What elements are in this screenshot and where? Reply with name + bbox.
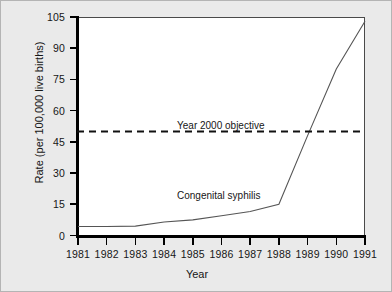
x-tick (364, 238, 366, 245)
x-tick-label: 1982 (95, 249, 119, 260)
y-tick (70, 203, 77, 205)
x-tick (192, 238, 194, 245)
y-tick-label: 75 (53, 74, 65, 85)
x-tick-label: 1989 (296, 249, 320, 260)
x-tick (307, 238, 309, 245)
x-tick (135, 238, 137, 245)
x-tick-label: 1988 (267, 249, 291, 260)
y-tick-label: 30 (53, 168, 65, 179)
x-tick-label: 1990 (324, 249, 348, 260)
x-tick (249, 238, 251, 245)
y-tick (70, 16, 77, 18)
x-tick (77, 238, 79, 245)
x-tick (221, 238, 223, 245)
x-tick-label: 1986 (209, 249, 233, 260)
x-tick-label: 1984 (152, 249, 176, 260)
y-tick (70, 172, 77, 174)
y-tick-label: 60 (53, 106, 65, 117)
y-tick (70, 79, 77, 81)
y-tick-label: 0 (59, 231, 65, 242)
x-tick (336, 238, 338, 245)
x-tick (106, 238, 108, 245)
x-tick (163, 238, 165, 245)
annotation-congenital-syphilis: Congenital syphilis (177, 191, 260, 201)
y-tick (70, 141, 77, 143)
y-tick-label: 15 (53, 199, 65, 210)
x-tick-label: 1983 (123, 249, 147, 260)
y-tick-label: 90 (53, 43, 65, 54)
chart-figure: 0153045607590105 19811982198319841985198… (0, 0, 392, 292)
y-axis-title: Rate (per 100,000 live births) (34, 13, 45, 213)
x-tick-label: 1991 (353, 249, 377, 260)
x-tick (278, 238, 280, 245)
x-axis-title: Year (1, 269, 392, 280)
y-tick (70, 110, 77, 112)
x-tick-label: 1987 (238, 249, 262, 260)
y-tick (70, 47, 77, 49)
annotation-year-2000-objective: Year 2000 objective (177, 121, 264, 131)
x-tick-label: 1981 (66, 249, 90, 260)
y-tick (70, 235, 77, 237)
y-tick-label: 45 (53, 137, 65, 148)
x-tick-label: 1985 (181, 249, 205, 260)
y-tick-label: 105 (47, 12, 65, 23)
